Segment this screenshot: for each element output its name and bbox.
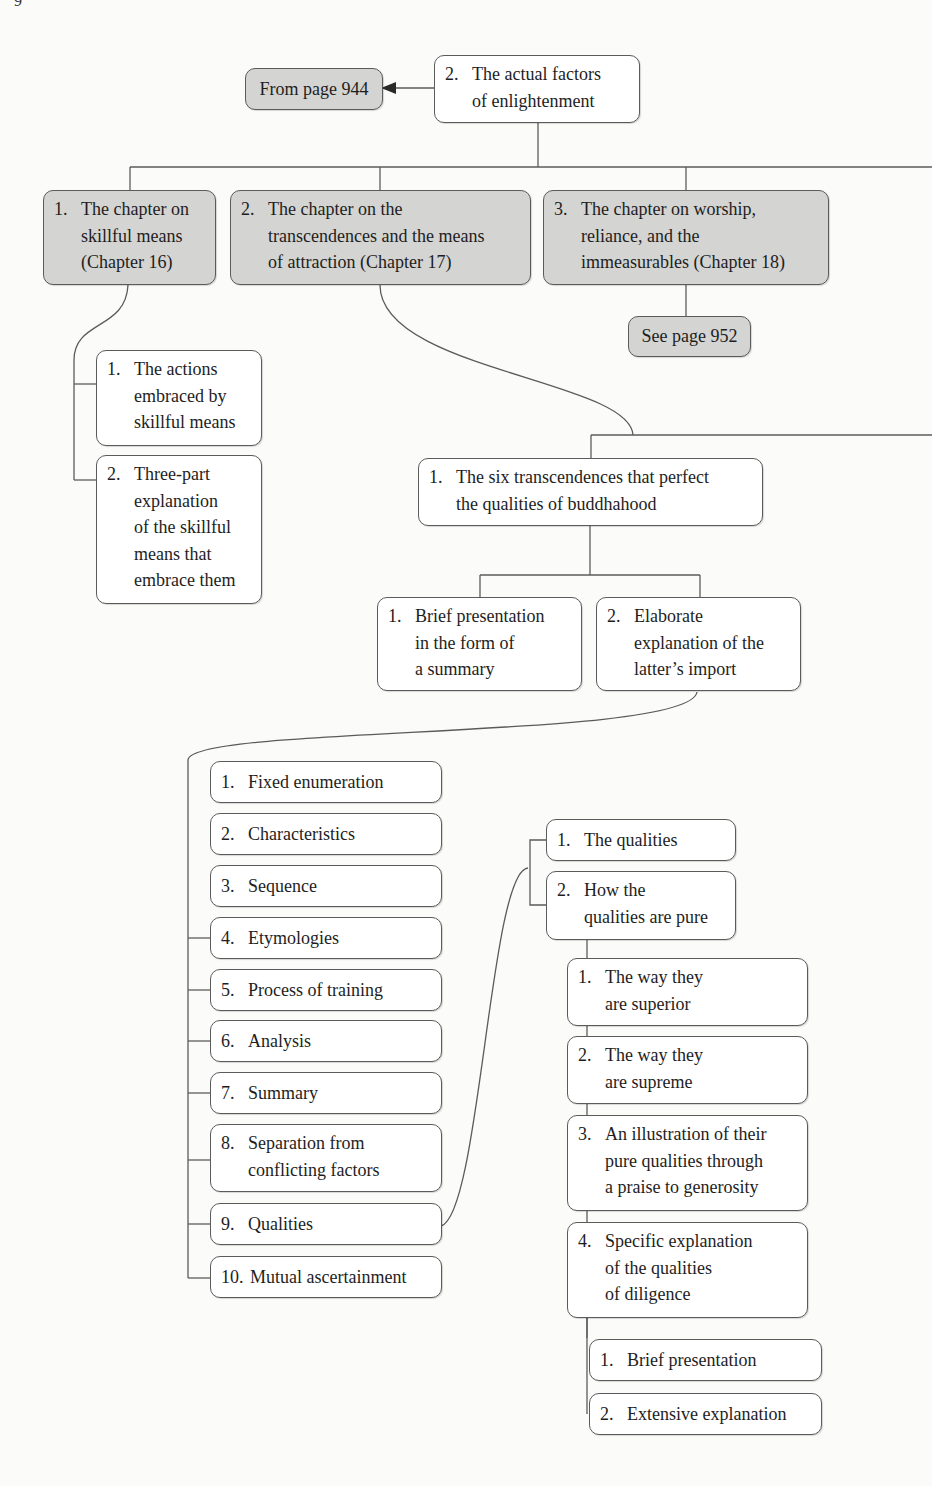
node-text: The actions embraced by skillful means [134, 356, 251, 436]
elaborate-item-6: 6.Analysis [210, 1020, 442, 1062]
node-text: Brief presentation in the form of a summ… [415, 603, 571, 683]
node-number: 2. [221, 821, 248, 848]
elaborate-item-1: 1.Fixed enumeration [210, 761, 442, 803]
node-text: The chapter on the transcendences and th… [268, 196, 520, 276]
node-number: 2. [607, 603, 634, 683]
node-number: 6. [221, 1028, 248, 1055]
node-text: Separation from conflicting factors [248, 1130, 431, 1183]
node-text: Brief presentation [627, 1347, 811, 1374]
six-transcendences-node: 1. The six transcendences that perfect t… [418, 458, 763, 526]
elaborate-item-4: 4.Etymologies [210, 917, 442, 959]
qualities-child-2: 2. How the qualities are pure [546, 871, 736, 940]
elaborate-item-2: 2.Characteristics [210, 813, 442, 855]
node-number: 5. [221, 977, 248, 1004]
elaborate-item-10: 10.Mutual ascertainment [210, 1256, 442, 1298]
node-number: 1. [578, 964, 605, 1017]
node-number: 2. [557, 877, 584, 930]
elaborate-explanation-node: 2. Elaborate explanation of the latter’s… [596, 597, 801, 691]
node-text: Analysis [248, 1028, 431, 1055]
node-number: 1. [557, 827, 584, 854]
node-text: Etymologies [248, 925, 431, 952]
diligence-child-2: 2.Extensive explanation [589, 1393, 822, 1435]
from-page-ref[interactable]: From page 944 [245, 68, 383, 110]
node-number: 10. [221, 1264, 250, 1291]
node-number: 4. [221, 925, 248, 952]
pure-child-1: 1.The way they are superior [567, 958, 808, 1026]
node-text: An illustration of their pure qualities … [605, 1121, 797, 1201]
node-number: 7. [221, 1080, 248, 1107]
node-number: 4. [578, 1228, 605, 1308]
pure-child-3: 3.An illustration of their pure qualitie… [567, 1115, 808, 1211]
elaborate-item-9: 9.Qualities [210, 1203, 442, 1245]
node-text: Process of training [248, 977, 431, 1004]
node-number: 1. [221, 769, 248, 796]
ref-text: From page 944 [260, 79, 369, 99]
node-text: Specific explanation of the qualities of… [605, 1228, 797, 1308]
node-text: Characteristics [248, 821, 431, 848]
node-number: 1. [429, 464, 456, 517]
node-text: The way they are supreme [605, 1042, 797, 1095]
node-number: 2. [241, 196, 268, 276]
chapter-node-3: 3. The chapter on worship, reliance, and… [543, 190, 829, 285]
diligence-child-1: 1.Brief presentation [589, 1339, 822, 1381]
chapter-node-1: 1. The chapter on skillful means (Chapte… [43, 190, 216, 285]
node-text: Extensive explanation [627, 1401, 811, 1428]
qualities-child-1: 1.The qualities [546, 819, 736, 861]
node-text: The six transcendences that perfect the … [456, 464, 752, 517]
node-number: 3. [554, 196, 581, 276]
node-number: 3. [221, 873, 248, 900]
page-number: 9 [14, 0, 22, 10]
node-number: 9. [221, 1211, 248, 1238]
root-node: 2. The actual factors of enlightenment [434, 55, 640, 123]
node-number: 3. [578, 1121, 605, 1201]
elaborate-item-7: 7.Summary [210, 1072, 442, 1114]
node-number: 2. [445, 61, 472, 114]
see-page-ref[interactable]: See page 952 [628, 316, 751, 357]
node-text: The way they are superior [605, 964, 797, 1017]
node-text: Mutual ascertainment [250, 1264, 431, 1291]
elaborate-item-8: 8.Separation from conflicting factors [210, 1124, 442, 1192]
node-text: How the qualities are pure [584, 877, 725, 930]
ref-text: See page 952 [642, 326, 738, 346]
node-text: The chapter on worship, reliance, and th… [581, 196, 818, 276]
node-number: 2. [600, 1401, 627, 1428]
node-text: Summary [248, 1080, 431, 1107]
skillful-means-child-2: 2. Three-part explanation of the skillfu… [96, 455, 262, 604]
chapter-node-2: 2. The chapter on the transcendences and… [230, 190, 531, 285]
node-number: 1. [388, 603, 415, 683]
node-number: 8. [221, 1130, 248, 1183]
elaborate-item-3: 3.Sequence [210, 865, 442, 907]
node-number: 1. [54, 196, 81, 276]
node-text: Sequence [248, 873, 431, 900]
node-text: Elaborate explanation of the latter’s im… [634, 603, 790, 683]
brief-presentation-summary-node: 1. Brief presentation in the form of a s… [377, 597, 582, 691]
node-text: Fixed enumeration [248, 769, 431, 796]
pure-child-4: 4.Specific explanation of the qualities … [567, 1222, 808, 1318]
node-number: 1. [107, 356, 134, 436]
elaborate-item-5: 5.Process of training [210, 969, 442, 1011]
node-text: The actual factors of enlightenment [472, 61, 629, 114]
node-number: 2. [107, 461, 134, 594]
node-number: 2. [578, 1042, 605, 1095]
pure-child-2: 2.The way they are supreme [567, 1036, 808, 1104]
node-text: Three-part explanation of the skillful m… [134, 461, 251, 594]
node-number: 1. [600, 1347, 627, 1374]
node-text: Qualities [248, 1211, 431, 1238]
skillful-means-child-1: 1. The actions embraced by skillful mean… [96, 350, 262, 446]
node-text: The qualities [584, 827, 725, 854]
node-text: The chapter on skillful means (Chapter 1… [81, 196, 205, 276]
